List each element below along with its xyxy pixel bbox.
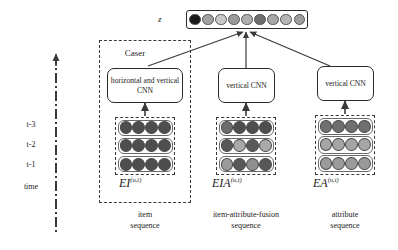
matrix-cell [332, 120, 345, 133]
matrix-row [318, 118, 373, 135]
matrix-cell [259, 158, 272, 171]
matrix-cell [120, 158, 133, 171]
matrix-cell [246, 139, 259, 152]
ea-caption-line1: attribute [310, 210, 380, 219]
matrix-cell [120, 121, 133, 134]
ea-math-sup: (u,t) [328, 176, 339, 183]
output-vector-cell [228, 14, 240, 26]
matrix-cell [221, 158, 234, 171]
matrix-cell [320, 138, 333, 151]
ea-math-label: EA(u,t) [313, 176, 339, 191]
matrix-cell [358, 120, 371, 133]
matrix-cell [246, 121, 259, 134]
eia-caption-line1: item-attribute-fusion [191, 210, 301, 219]
matrix-row [118, 156, 173, 173]
matrix-cell [221, 121, 234, 134]
matrix-cell [320, 157, 333, 170]
matrix-row [219, 120, 274, 137]
matrix-cell [145, 158, 158, 171]
matrix-cell [158, 121, 171, 134]
matrix-cell [221, 139, 234, 152]
time-tick-t-3: t-3 [16, 120, 46, 129]
time-axis-dash [55, 73, 57, 83]
eia-math-sup: (u,t) [231, 176, 242, 183]
output-vector-cell [254, 14, 266, 26]
time-axis-dash [55, 217, 57, 227]
time-tick-t-1: t-1 [16, 160, 46, 169]
output-vector-cell [202, 14, 214, 26]
caser-group-label: Caser [105, 49, 165, 58]
output-vector [186, 10, 308, 29]
ea-caption-line2: sequence [310, 221, 380, 230]
output-vector-cell [215, 14, 227, 26]
time-axis-dot [55, 122, 57, 124]
ei-math-base: EI [119, 176, 130, 190]
ei-math-sup: (u,t) [130, 176, 141, 183]
matrix-cell [358, 157, 371, 170]
time-axis-dot [55, 140, 57, 142]
ea-cnn-box: vertical CNN [317, 66, 374, 101]
matrix-cell [259, 139, 272, 152]
eia-matrix [216, 117, 276, 175]
time-axis-dot [55, 86, 57, 88]
matrix-cell [132, 158, 145, 171]
output-vector-cell [267, 14, 279, 26]
time-axis-dash [55, 181, 57, 191]
arrow-ea-to-z [250, 32, 330, 66]
matrix-row [219, 138, 274, 155]
matrix-cell [259, 121, 272, 134]
matrix-cell [132, 139, 145, 152]
matrix-cell [320, 120, 333, 133]
time-axis-dash [55, 55, 57, 65]
item-caption-line1: item [110, 210, 180, 219]
item-cnn-label: horizontal and vertical CNN [108, 76, 182, 95]
matrix-cell [332, 157, 345, 170]
eia-cnn-label: vertical CNN [226, 81, 267, 91]
matrix-row [219, 156, 274, 173]
time-axis-dash [55, 163, 57, 173]
time-axis-caption: time [12, 182, 50, 191]
ei-matrix [115, 117, 175, 175]
matrix-cell [233, 121, 246, 134]
time-axis-dot [55, 68, 57, 70]
time-axis-dash [55, 127, 57, 137]
time-axis-dot [55, 194, 57, 196]
output-vector-cell [294, 14, 306, 26]
matrix-cell [233, 158, 246, 171]
matrix-row [118, 138, 173, 155]
eia-math-label: EIA(u,t) [212, 176, 242, 191]
output-vector-cell [189, 14, 201, 26]
output-vector-cell [280, 14, 292, 26]
time-axis-dot [55, 104, 57, 106]
ea-cnn-label: vertical CNN [325, 79, 366, 89]
ea-math-base: EA [313, 176, 328, 190]
ei-math-label: EI(u,t) [119, 176, 141, 191]
diagram-canvas: z t-3 t-2 t-1 time Caser horizontal and … [0, 0, 398, 250]
time-tick-t-2: t-2 [16, 140, 46, 149]
time-axis-dot [55, 176, 57, 178]
matrix-cell [345, 157, 358, 170]
matrix-cell [358, 138, 371, 151]
item-cnn-box: horizontal and vertical CNN [107, 68, 183, 103]
time-axis-dash [55, 91, 57, 101]
matrix-cell [158, 139, 171, 152]
matrix-cell [132, 121, 145, 134]
output-vector-cell [241, 14, 253, 26]
matrix-row [318, 155, 373, 172]
time-axis-dot [55, 158, 57, 160]
matrix-cell [345, 138, 358, 151]
eia-caption-line2: sequence [191, 221, 301, 230]
eia-cnn-box: vertical CNN [218, 68, 275, 103]
matrix-cell [158, 158, 171, 171]
matrix-row [318, 136, 373, 153]
matrix-cell [145, 121, 158, 134]
item-caption-line2: sequence [110, 221, 180, 230]
time-axis [55, 55, 57, 233]
ea-matrix [315, 115, 375, 175]
time-axis-dash [55, 145, 57, 155]
time-axis-dash [55, 199, 57, 209]
matrix-cell [233, 139, 246, 152]
matrix-cell [246, 158, 259, 171]
matrix-cell [345, 120, 358, 133]
eia-math-base: EIA [212, 176, 231, 190]
